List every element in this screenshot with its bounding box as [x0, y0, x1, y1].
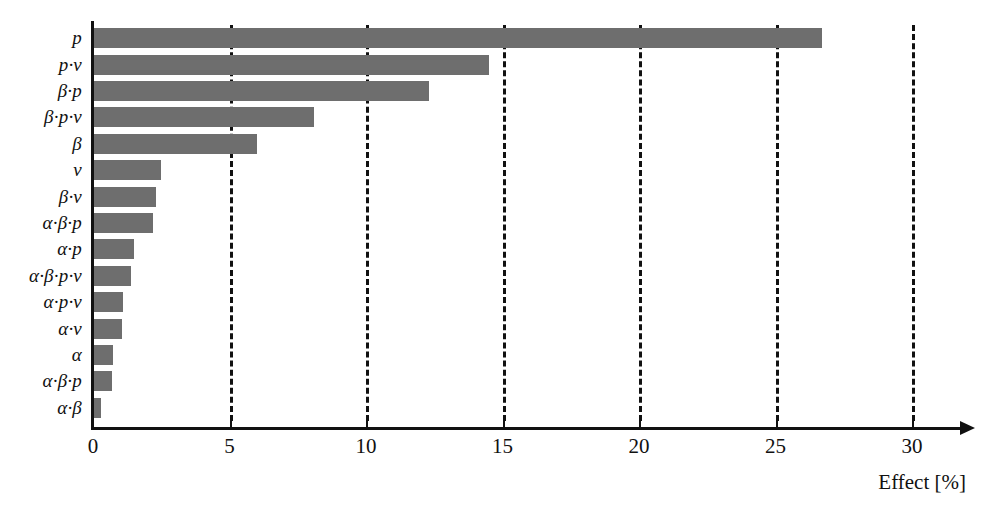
x-tick-15	[503, 419, 505, 428]
x-tick-5	[230, 419, 232, 428]
bar	[93, 371, 112, 391]
category-label: α·ν	[58, 319, 82, 338]
category-label: α·β·p	[43, 213, 82, 232]
bar	[93, 107, 314, 127]
category-label: p	[72, 28, 82, 47]
x-tick-label: 15	[492, 434, 513, 459]
category-label: β·p·ν	[44, 107, 82, 126]
bar	[93, 55, 489, 75]
x-axis-line	[91, 427, 966, 430]
bar	[93, 266, 131, 286]
x-tick-label: 25	[765, 434, 786, 459]
effect-pareto-chart: pp·νβ·pβ·p·νβνβ·να·β·pα·pα·β·p·να·p·να·ν…	[0, 0, 984, 510]
category-label: α·β·p·ν	[29, 266, 82, 285]
bar	[93, 160, 161, 180]
x-tick-30	[912, 419, 914, 428]
plot-area	[93, 25, 953, 421]
x-tick-label: 10	[356, 434, 377, 459]
category-label: β·ν	[59, 187, 82, 206]
gridline-20	[639, 25, 642, 421]
x-tick-label: 5	[224, 434, 235, 459]
x-tick-25	[776, 419, 778, 428]
bar	[93, 187, 156, 207]
bar	[93, 134, 257, 154]
category-label-column: pp·νβ·pβ·p·νβνβ·να·β·pα·pα·β·p·να·p·να·ν…	[0, 25, 88, 421]
category-label: α·p·ν	[44, 292, 82, 311]
bar	[93, 319, 122, 339]
x-tick-label: 20	[629, 434, 650, 459]
category-label: β·p	[58, 81, 82, 100]
bar	[93, 292, 123, 312]
bar	[93, 345, 113, 365]
x-axis-title: Effect [%]	[878, 470, 966, 495]
x-tick-10	[366, 419, 368, 428]
bar	[93, 28, 822, 48]
category-label: ν	[73, 160, 82, 179]
gridline-15	[503, 25, 506, 421]
x-tick-label: 30	[902, 434, 923, 459]
gridline-30	[912, 25, 915, 421]
category-label: α	[72, 345, 82, 364]
category-label: α·β	[57, 398, 82, 417]
bar	[93, 239, 134, 259]
y-axis-line	[91, 21, 94, 430]
category-label: α·β·p	[43, 371, 82, 390]
bar	[93, 81, 429, 101]
category-label: β	[72, 134, 82, 153]
category-label: α·p	[57, 239, 82, 258]
x-axis-arrow-icon	[960, 421, 975, 435]
bar	[93, 398, 101, 418]
x-tick-20	[639, 419, 641, 428]
bar	[93, 213, 153, 233]
category-label: p·ν	[59, 55, 82, 74]
gridline-25	[776, 25, 779, 421]
x-tick-label: 0	[88, 434, 99, 459]
